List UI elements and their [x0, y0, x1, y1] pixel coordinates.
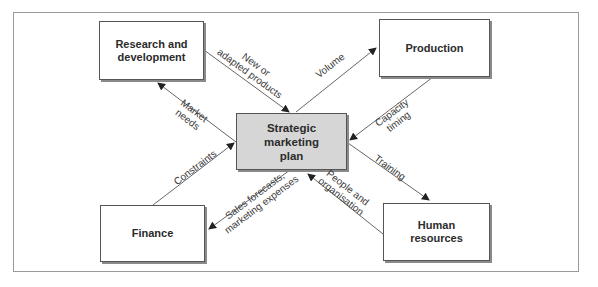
node-label: Research and development	[115, 38, 187, 64]
node-human-resources: Human resources	[383, 203, 490, 261]
node-production: Production	[379, 19, 490, 77]
node-label: Finance	[132, 227, 174, 240]
node-finance: Finance	[100, 205, 205, 262]
node-label: Human resources	[410, 219, 463, 245]
node-label: Production	[405, 42, 463, 55]
node-label: Strategic marketing plan	[264, 121, 319, 163]
node-research-and-development: Research and development	[99, 21, 204, 80]
